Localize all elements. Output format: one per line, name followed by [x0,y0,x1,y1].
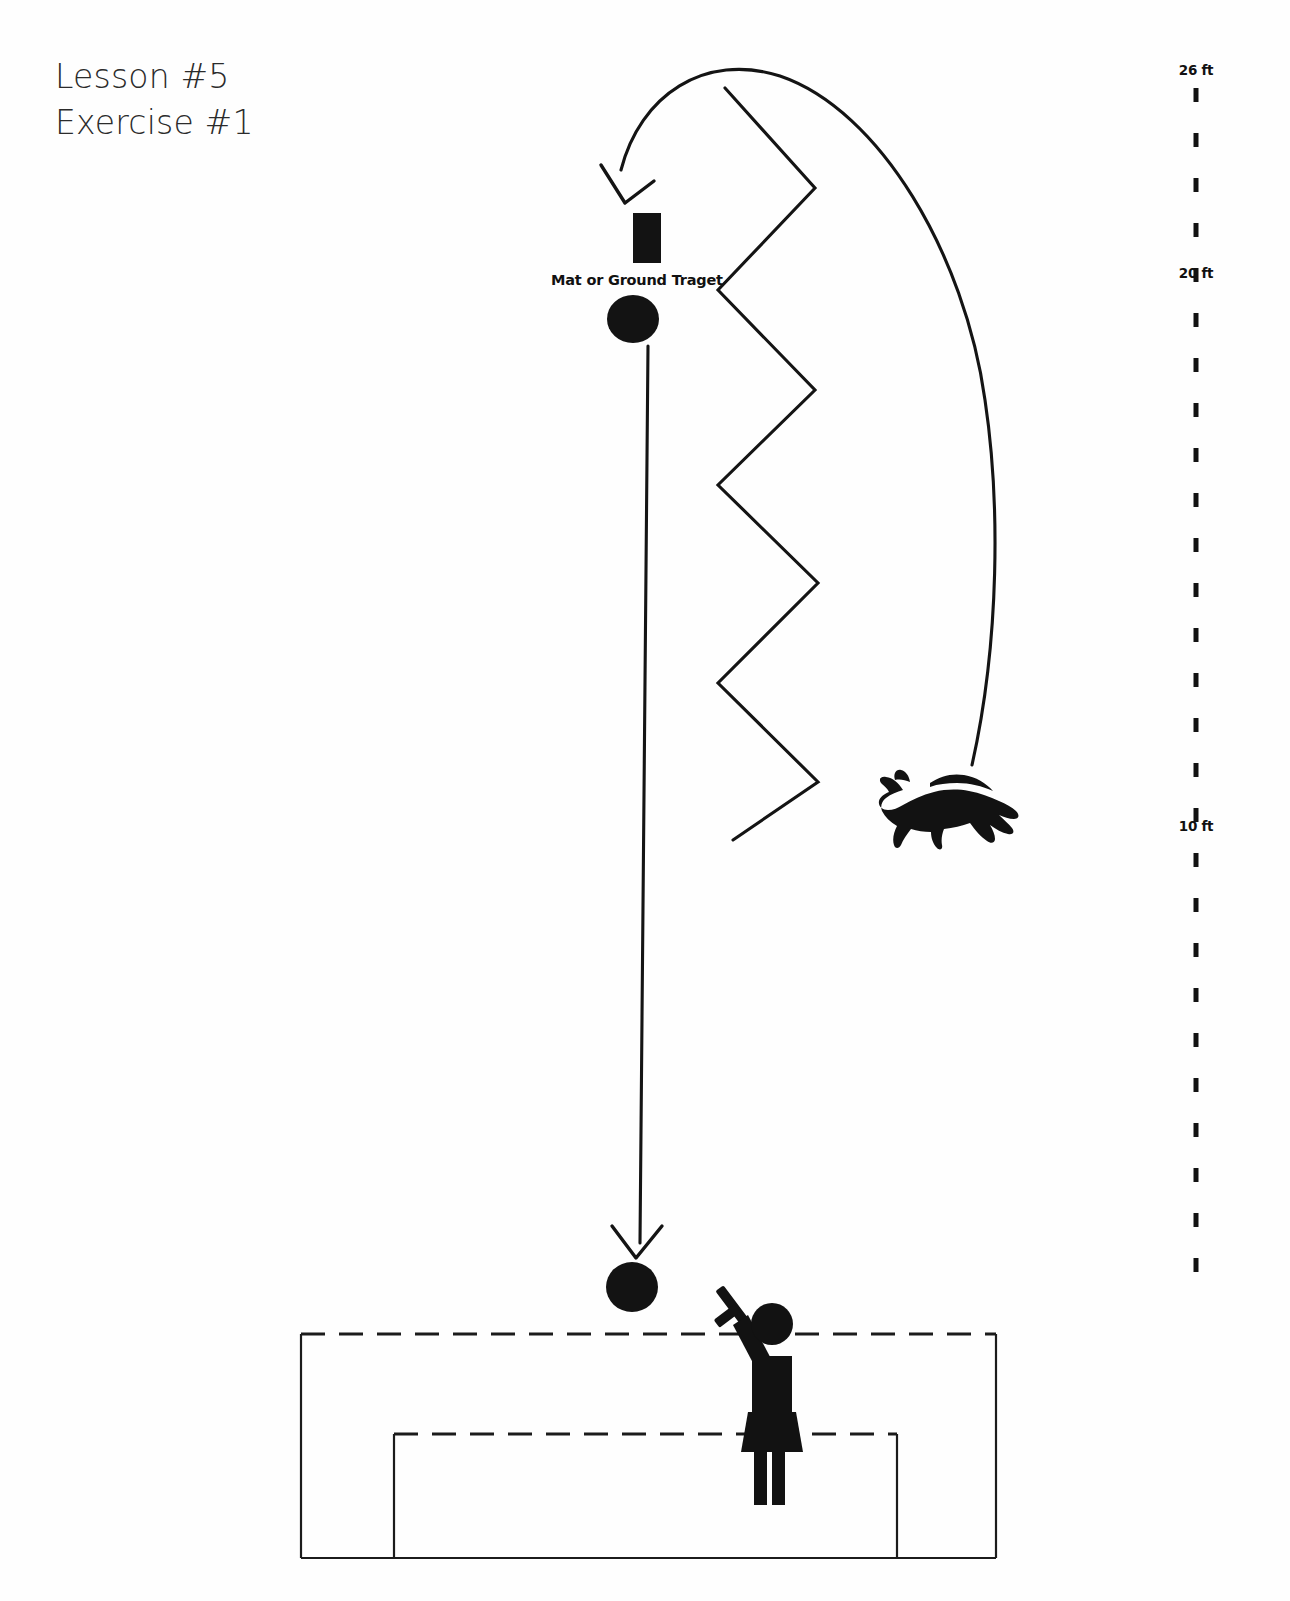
ruler-label-26ft: 26 ft [1179,62,1213,78]
handler-figure [714,1285,803,1505]
zigzag-path [718,88,818,840]
target-disc-upper [607,295,659,343]
inner-ring-box [394,1434,897,1558]
outer-ring-box [301,1334,996,1558]
ruler-label-20ft: 20 ft [1179,265,1213,281]
title-line-exercise: Exercise #1 [55,100,254,146]
page-title: Lesson #5 Exercise #1 [55,54,254,145]
send-out-path [612,346,662,1258]
exercise-diagram [0,0,1290,1601]
ruler-label-10ft: 10 ft [1179,818,1213,834]
dog-return-arc [601,69,995,765]
title-line-lesson: Lesson #5 [55,54,254,100]
mat-target-label: Mat or Ground Traget [551,272,723,288]
diagram-page: Lesson #5 Exercise #1 Mat or Ground Trag… [0,0,1290,1601]
dog-silhouette [879,770,1019,850]
target-disc-lower [606,1262,658,1312]
mat-or-ground-target [633,213,661,263]
